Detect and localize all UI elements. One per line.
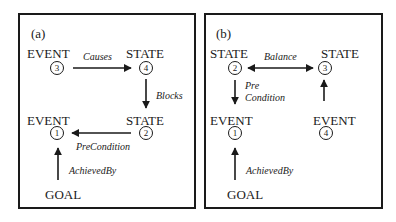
node-state-2-number: 2 — [139, 126, 153, 140]
edge-achievedby-label-b: AchievedBy — [246, 166, 293, 176]
edge-balance-label: Balance — [264, 52, 297, 62]
node-state-2-number-b: 2 — [228, 61, 242, 75]
edge-precondition-label-line1: Pre — [245, 81, 259, 91]
node-event-1-number-b: 1 — [228, 126, 242, 140]
node-event-4-type-b: EVENT — [313, 114, 356, 127]
node-state-4-number: 4 — [139, 61, 153, 75]
node-event-1-type-b: EVENT — [210, 114, 253, 127]
node-event-4-number-b: 4 — [319, 126, 333, 140]
edge-causes-label: Causes — [83, 52, 112, 62]
node-event-1-type: EVENT — [27, 114, 70, 127]
edge-precondition-label-line2: Condition — [245, 93, 285, 103]
node-event-3-number: 3 — [50, 61, 64, 75]
edge-achievedby-label: AchievedBy — [69, 166, 116, 176]
node-state-4-type: STATE — [126, 47, 164, 60]
node-state-2-type-b: STATE — [210, 47, 248, 60]
panel-a — [18, 13, 196, 209]
node-goal-type: GOAL — [45, 188, 81, 201]
node-state-3-number-b: 3 — [318, 61, 332, 75]
node-event-3-type: EVENT — [27, 47, 70, 60]
edge-precondition-label: PreCondition — [76, 142, 130, 152]
panel-a-tag: (a) — [31, 27, 45, 40]
panel-b-tag: (b) — [216, 27, 231, 40]
node-event-1-number: 1 — [50, 126, 64, 140]
node-state-3-type-b: STATE — [321, 47, 359, 60]
edge-blocks-label: Blocks — [156, 91, 183, 101]
panel-b — [204, 13, 383, 209]
node-goal-type-b: GOAL — [227, 188, 263, 201]
